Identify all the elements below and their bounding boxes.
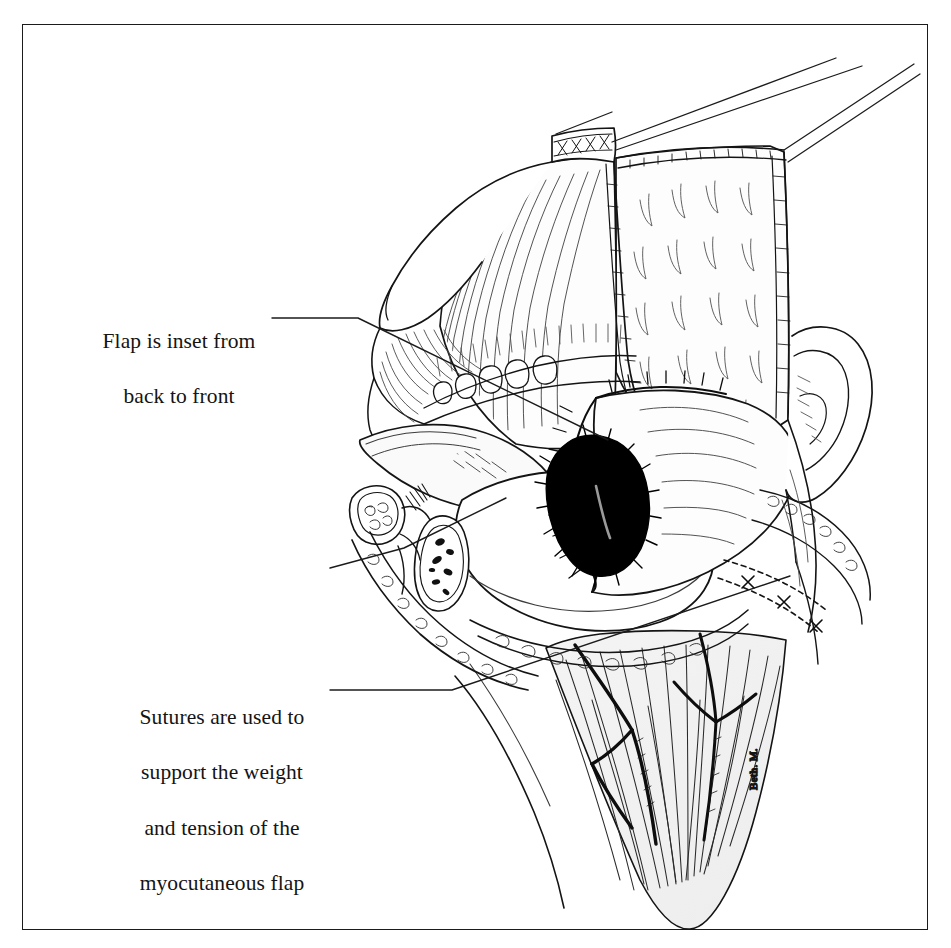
svg-text:Beth. M.: Beth. M. <box>747 748 759 790</box>
ear-auricle <box>786 327 872 562</box>
annotation-sutures-support-line-2: support the weight <box>122 759 322 787</box>
annotation-sutures-support-line-3: and tension of the <box>122 815 322 843</box>
illustration-ink: Beth. M. <box>272 58 920 929</box>
annotation-flap-inset: Flap is inset from back to front <box>88 300 270 439</box>
annotation-sutures-support: Sutures are used to support the weight a… <box>122 676 322 926</box>
annotation-flap-inset-line-2: back to front <box>88 383 270 411</box>
shoulder-contour <box>455 664 564 908</box>
illustration-page: Beth. M. Flap is inset from back to fron… <box>0 0 951 948</box>
artist-signature: Beth. M. <box>747 748 759 790</box>
annotation-flap-inset-line-1: Flap is inset from <box>88 328 270 356</box>
annotation-sutures-support-line-1: Sutures are used to <box>122 704 322 732</box>
annotation-sutures-support-line-4: myocutaneous flap <box>122 870 322 898</box>
